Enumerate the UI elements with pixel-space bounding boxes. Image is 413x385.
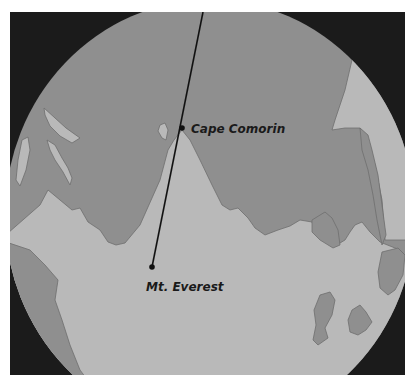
map-frame: Cape Comorin Mt. Everest [10, 12, 405, 375]
mt-everest-label: Mt. Everest [146, 280, 225, 294]
globe-map: Cape Comorin Mt. Everest [10, 12, 405, 375]
mt-everest-marker [149, 264, 155, 270]
cape-comorin-marker [179, 125, 185, 131]
cape-comorin-label: Cape Comorin [191, 122, 285, 136]
